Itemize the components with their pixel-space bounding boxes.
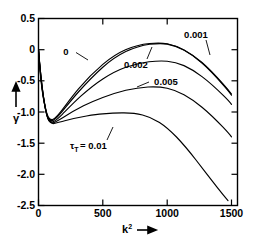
tau-subscript: T (74, 146, 79, 153)
y-axis-title: γ (13, 112, 20, 124)
curve-label-tau-0005: 0.005 (154, 76, 178, 87)
y-tick-label-2: -0.5 (17, 74, 35, 86)
curve-label-tau-001: τT= 0.01 (70, 140, 107, 153)
annotation-leaders (76, 40, 210, 140)
y-tick-label-3: -1.0 (17, 106, 35, 118)
x-tick-label-0: 0 (36, 207, 42, 219)
y-tick-label-0: 0.5 (20, 12, 35, 24)
curve-label-tau-0: 0 (63, 46, 68, 57)
y-tick-label-1: 0 (29, 43, 35, 55)
x-tick-label-1: 500 (94, 207, 112, 219)
leader-tau-0005 (137, 82, 149, 87)
tau-value: = 0.01 (80, 140, 107, 151)
curve-label-tau-0002: 0.002 (124, 59, 148, 70)
curve-tau-001 (39, 50, 229, 201)
leader-tau-0002 (147, 47, 152, 59)
x-tick-label-3: 1500 (220, 207, 244, 219)
leader-tau-0 (76, 53, 88, 61)
x-tick-label-2: 1000 (156, 207, 180, 219)
y-tickmarks-right (232, 50, 238, 175)
y-tick-label-6: -2.5 (17, 199, 35, 211)
x-axis-title: k2 (122, 223, 132, 235)
y-tickmarks (39, 19, 45, 206)
leader-tau-001 (107, 127, 113, 140)
y-tick-label-5: -2.0 (17, 168, 35, 180)
x-axis-title-exponent: 2 (128, 223, 132, 230)
x-axis-arrow-icon (137, 227, 156, 233)
y-axis-arrow-icon (13, 83, 20, 107)
curve-label-tau-0001: 0.001 (184, 29, 208, 40)
chart-canvas: 0.5 0 -0.5 -1.0 -1.5 -2.0 -2.5 0 500 100… (0, 0, 254, 243)
leader-tau-0001 (206, 40, 210, 55)
chart-figure: 0.5 0 -0.5 -1.0 -1.5 -2.0 -2.5 0 500 100… (0, 0, 254, 243)
y-tick-label-4: -1.5 (17, 137, 35, 149)
